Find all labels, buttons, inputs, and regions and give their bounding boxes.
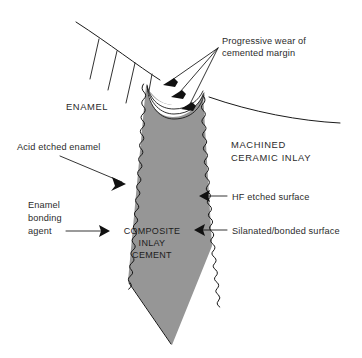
silanated-bonded-surface-label: Silanated/bonded surface	[232, 226, 340, 236]
enamel-bonding-agent-label-line2: bonding	[28, 213, 62, 223]
ceramic-inlay-body	[128, 86, 212, 345]
diagram-canvas: Progressive wear of cemented margin ENAM…	[0, 0, 362, 358]
enamel-surface-curve	[76, 22, 160, 80]
machined-ceramic-inlay-label-line1: MACHINED	[231, 139, 286, 150]
wear-arrowhead-1	[163, 78, 178, 87]
enamel-bonding-agent-label-line1: Enamel	[28, 200, 60, 210]
wear-arrowhead-2	[171, 90, 186, 99]
enamel-bonding-agent-label-line3: agent	[28, 226, 52, 236]
progressive-wear-label-line1: Progressive wear of	[222, 36, 306, 46]
hf-etched-surface-label: HF etched surface	[232, 192, 310, 202]
acid-etched-enamel-arrowhead	[111, 177, 126, 191]
enamel-surface-curve-right	[209, 97, 340, 123]
progressive-wear-label-line2: cemented margin	[222, 48, 295, 58]
composite-inlay-cement-label-line1: COMPOSITE	[124, 226, 181, 236]
enamel-label: ENAMEL	[66, 101, 108, 112]
machined-ceramic-inlay-label-line2: CERAMIC INLAY	[231, 152, 311, 163]
composite-inlay-cement-label-line3: CEMENT	[132, 250, 172, 260]
progressive-wear-leaders	[163, 48, 218, 111]
ceramic-inlay-diagram: Progressive wear of cemented margin ENAM…	[0, 0, 362, 358]
acid-etched-enamel-label: Acid etched enamel	[17, 142, 100, 152]
composite-inlay-cement-label-line2: INLAY	[139, 238, 166, 248]
